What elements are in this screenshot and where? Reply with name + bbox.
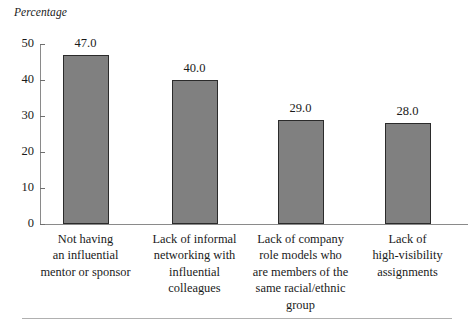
- category-label-line: are members of the: [242, 264, 360, 280]
- category-label-line: Lack of: [352, 231, 464, 247]
- bar: [63, 55, 109, 224]
- y-axis-tick: [40, 80, 45, 81]
- category-label-line: role models who: [242, 247, 360, 263]
- x-axis-category-label: Not havingan influentialmentor or sponso…: [25, 231, 147, 280]
- y-axis-tick-label: 10: [0, 180, 34, 195]
- y-axis-tick-label: 30: [0, 108, 34, 123]
- x-axis-category-label: Lack of companyrole models whoare member…: [242, 231, 360, 313]
- x-axis-category-label: Lack ofhigh-visibilityassignments: [352, 231, 464, 280]
- y-axis-tick-label: 40: [0, 72, 34, 87]
- y-axis-tick: [40, 44, 45, 45]
- category-label-line: influential: [137, 264, 253, 280]
- y-axis-title: Percentage: [14, 6, 67, 18]
- bar-value-label: 29.0: [261, 101, 341, 116]
- y-axis-tick-label: 0: [0, 216, 34, 231]
- y-axis-tick: [40, 188, 45, 189]
- y-axis-tick: [40, 224, 45, 225]
- y-axis-tick: [40, 116, 45, 117]
- category-label-line: group: [242, 297, 360, 313]
- category-label-line: colleagues: [137, 280, 253, 296]
- bar: [172, 80, 218, 224]
- y-axis-tick-label: 20: [0, 144, 34, 159]
- bar: [385, 123, 431, 224]
- y-axis-tick-label: 50: [0, 36, 34, 51]
- bar-value-label: 28.0: [368, 104, 448, 119]
- category-label-line: networking with: [137, 247, 253, 263]
- category-label-line: Not having: [25, 231, 147, 247]
- bar-chart-figure: Percentage 01020304050 47.040.029.028.0 …: [0, 0, 472, 333]
- category-label-line: Lack of informal: [137, 231, 253, 247]
- x-axis-category-label: Lack of informalnetworking withinfluenti…: [137, 231, 253, 297]
- category-label-line: assignments: [352, 264, 464, 280]
- category-label-line: same racial/ethnic: [242, 280, 360, 296]
- bar: [278, 120, 324, 224]
- category-label-line: an influential: [25, 247, 147, 263]
- footer-divider: [22, 318, 452, 319]
- category-label-line: Lack of company: [242, 231, 360, 247]
- x-axis-line: [40, 224, 468, 225]
- category-label-line: high-visibility: [352, 247, 464, 263]
- y-axis-tick: [40, 152, 45, 153]
- bar-value-label: 40.0: [155, 61, 235, 76]
- category-label-line: mentor or sponsor: [25, 264, 147, 280]
- y-axis-line: [40, 44, 41, 225]
- bar-value-label: 47.0: [46, 36, 126, 51]
